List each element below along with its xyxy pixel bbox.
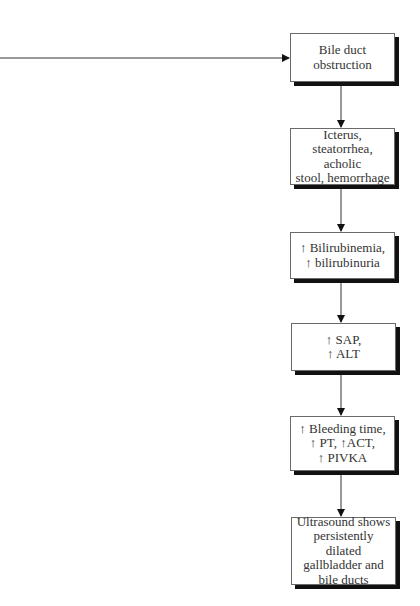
node-liver-enzymes: ↑ SAP, ↑ ALT — [291, 323, 396, 371]
node-label: Icterus, steatorrhea, acholic stool, hem… — [295, 128, 390, 186]
node-label: ↑ SAP, ↑ ALT — [326, 333, 361, 362]
node-bilirubin: ↑ Bilirubinemia, ↑ bilirubinuria — [290, 232, 395, 279]
node-bile-duct-obstruction: Bile duct obstruction — [290, 33, 395, 82]
node-label: Bile duct obstruction — [313, 43, 372, 72]
node-clinical-signs: Icterus, steatorrhea, acholic stool, hem… — [290, 128, 395, 185]
node-label: ↑ Bilirubinemia, ↑ bilirubinuria — [300, 241, 385, 270]
flowchart: Bile duct obstruction Icterus, steatorrh… — [0, 0, 420, 606]
node-label: ↑ Bleeding time, ↑ PT, ↑ACT, ↑ PIVKA — [299, 422, 385, 466]
node-coagulation: ↑ Bleeding time, ↑ PT, ↑ACT, ↑ PIVKA — [290, 416, 395, 471]
node-label: Ultrasound shows persistently dilated ga… — [296, 515, 391, 588]
node-ultrasound: Ultrasound shows persistently dilated ga… — [291, 517, 396, 585]
